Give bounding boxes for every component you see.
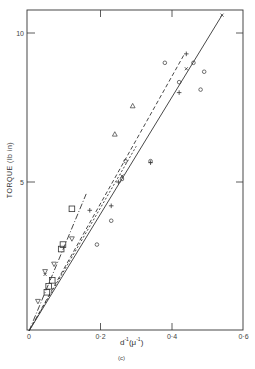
data-points (36, 14, 224, 304)
plus-marker (116, 180, 121, 185)
y-tick-label: 10 (16, 30, 24, 37)
plus-marker (109, 204, 114, 209)
x-tick-label: 0·2 (95, 333, 105, 340)
y-tick-label: 5 (20, 179, 24, 186)
fit-lines (29, 15, 222, 331)
cross-marker (221, 14, 224, 17)
axis-ticks: 00·20·40·6510 (16, 10, 248, 340)
plus-marker (177, 90, 182, 95)
x-tick-label: 0·6 (238, 333, 248, 340)
inverted-triangle-marker (70, 237, 75, 241)
fit-line-dashed (29, 54, 185, 331)
fit-line-solid (29, 15, 222, 331)
scatter-plot: 00·20·40·6510 (0, 0, 255, 369)
triangle-marker (112, 132, 117, 136)
circle-marker (95, 243, 99, 247)
inverted-triangle-marker (36, 299, 41, 303)
plus-marker (184, 52, 189, 57)
triangle-marker (130, 103, 135, 107)
circle-marker (199, 88, 203, 92)
circle-marker (109, 219, 113, 223)
cross-marker (185, 67, 188, 70)
x-axis-label: d-1(μ-1) (120, 336, 143, 347)
plus-marker (87, 208, 92, 213)
fit-line-dash-dot (29, 194, 86, 331)
circle-marker (177, 80, 181, 84)
square-marker (49, 278, 55, 284)
square-marker (69, 206, 75, 212)
inverted-triangle-marker (43, 270, 48, 274)
x-tick-label: 0 (27, 333, 31, 340)
fit-line-short-dashed (29, 146, 136, 331)
y-axis-label: TORQUE (lb in) (2, 110, 16, 230)
x-tick-label: 0·4 (167, 333, 177, 340)
y-axis-label-text: TORQUE (lb in) (6, 142, 13, 198)
circle-marker (163, 61, 167, 65)
figure-caption: (c) (118, 355, 125, 361)
circle-marker (202, 70, 206, 74)
